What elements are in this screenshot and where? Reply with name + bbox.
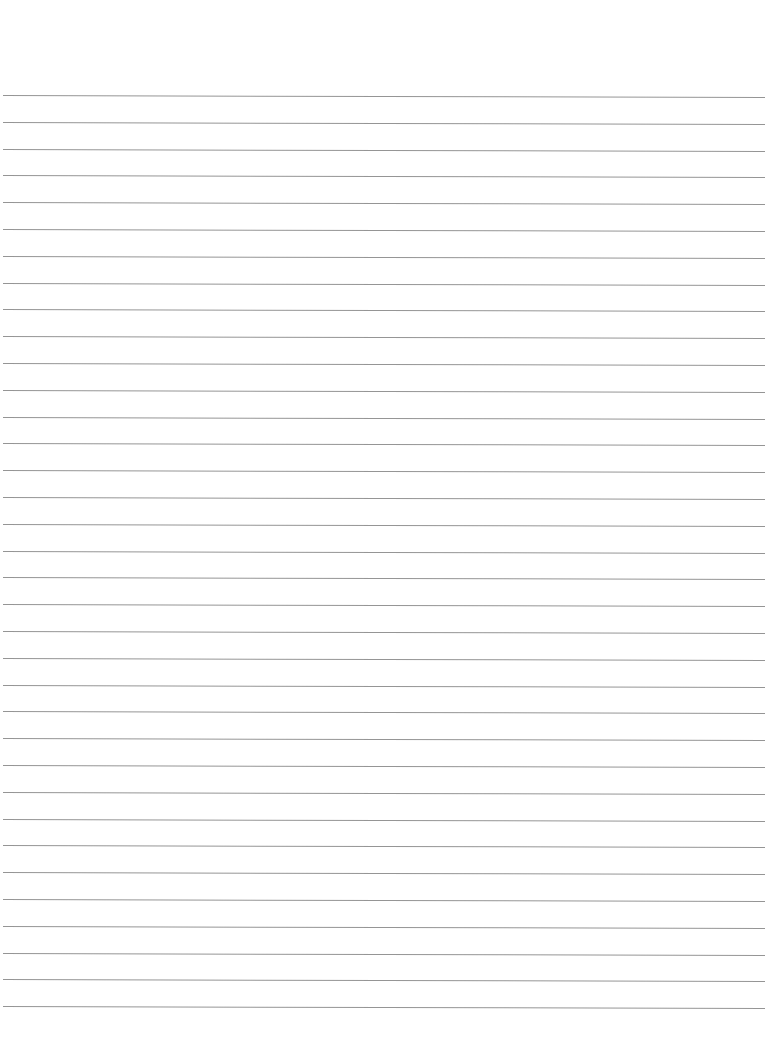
ruled-line (3, 175, 765, 178)
ruled-line (3, 95, 765, 98)
ruled-line (3, 604, 765, 607)
ruled-line (3, 363, 765, 366)
ruled-line (3, 417, 765, 420)
ruled-line (3, 899, 765, 902)
ruled-line (3, 658, 765, 661)
ruled-line (3, 685, 765, 688)
lined-paper-page (0, 0, 767, 1058)
ruled-line (3, 202, 765, 205)
ruled-line (3, 738, 765, 741)
ruled-line (3, 524, 765, 527)
ruled-line (3, 470, 765, 473)
ruled-line (3, 229, 765, 232)
ruled-line (3, 336, 765, 339)
ruled-line (3, 1006, 765, 1009)
ruled-line (3, 631, 765, 634)
ruled-line (3, 819, 765, 822)
ruled-line (3, 872, 765, 875)
ruled-line (3, 309, 765, 312)
ruled-line (3, 390, 765, 393)
ruled-line (3, 551, 765, 554)
ruled-line (3, 256, 765, 259)
ruled-line (3, 122, 765, 125)
ruled-line (3, 765, 765, 768)
ruled-line (3, 149, 765, 152)
ruled-line (3, 953, 765, 956)
ruled-line (3, 577, 765, 580)
ruled-line (3, 792, 765, 795)
ruled-line (3, 497, 765, 500)
ruled-line (3, 979, 765, 982)
ruled-line (3, 845, 765, 848)
ruled-line (3, 283, 765, 286)
ruled-line (3, 443, 765, 446)
ruled-line (3, 711, 765, 714)
ruled-line (3, 926, 765, 929)
